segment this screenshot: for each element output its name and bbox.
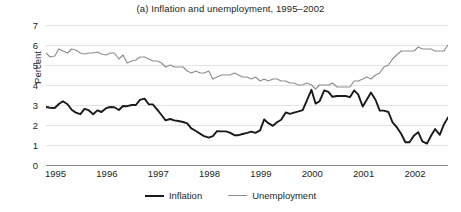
- y-axis-tick-labels: 01234567: [0, 0, 46, 190]
- series-lines: [46, 25, 448, 165]
- legend-item-inflation[interactable]: Inflation: [145, 190, 202, 201]
- plot-area: [46, 25, 448, 165]
- x-tick-label: 1997: [148, 168, 169, 179]
- y-tick-label: 2: [33, 120, 38, 131]
- x-tick-label: 1995: [45, 168, 66, 179]
- legend-item-unemployment[interactable]: Unemployment: [228, 190, 316, 201]
- chart-title: (a) Inflation and unemployment, 1995–200…: [0, 3, 461, 14]
- x-axis-line: [46, 165, 448, 166]
- chart-legend: InflationUnemployment: [0, 190, 461, 201]
- x-tick-label: 1996: [96, 168, 117, 179]
- legend-swatch-icon: [145, 195, 164, 197]
- y-tick-label: 5: [33, 60, 38, 71]
- x-tick-label: 1998: [199, 168, 220, 179]
- y-tick-label: 6: [33, 40, 38, 51]
- x-tick-label: 2002: [404, 168, 425, 179]
- legend-swatch-icon: [228, 195, 247, 196]
- y-tick-label: 3: [33, 100, 38, 111]
- legend-label: Inflation: [169, 190, 202, 201]
- y-tick-label: 4: [33, 80, 38, 91]
- x-tick-label: 2001: [353, 168, 374, 179]
- y-tick-label: 7: [33, 20, 38, 31]
- x-tick-label: 1999: [250, 168, 271, 179]
- x-axis-tick-labels: 19951996199719981999200020012002: [0, 168, 461, 184]
- legend-label: Unemployment: [252, 190, 316, 201]
- series-line-inflation: [46, 90, 448, 144]
- y-tick-label: 1: [33, 140, 38, 151]
- series-line-unemployment: [46, 45, 448, 89]
- x-tick-label: 2000: [302, 168, 323, 179]
- inflation-unemployment-chart: (a) Inflation and unemployment, 1995–200…: [0, 0, 461, 212]
